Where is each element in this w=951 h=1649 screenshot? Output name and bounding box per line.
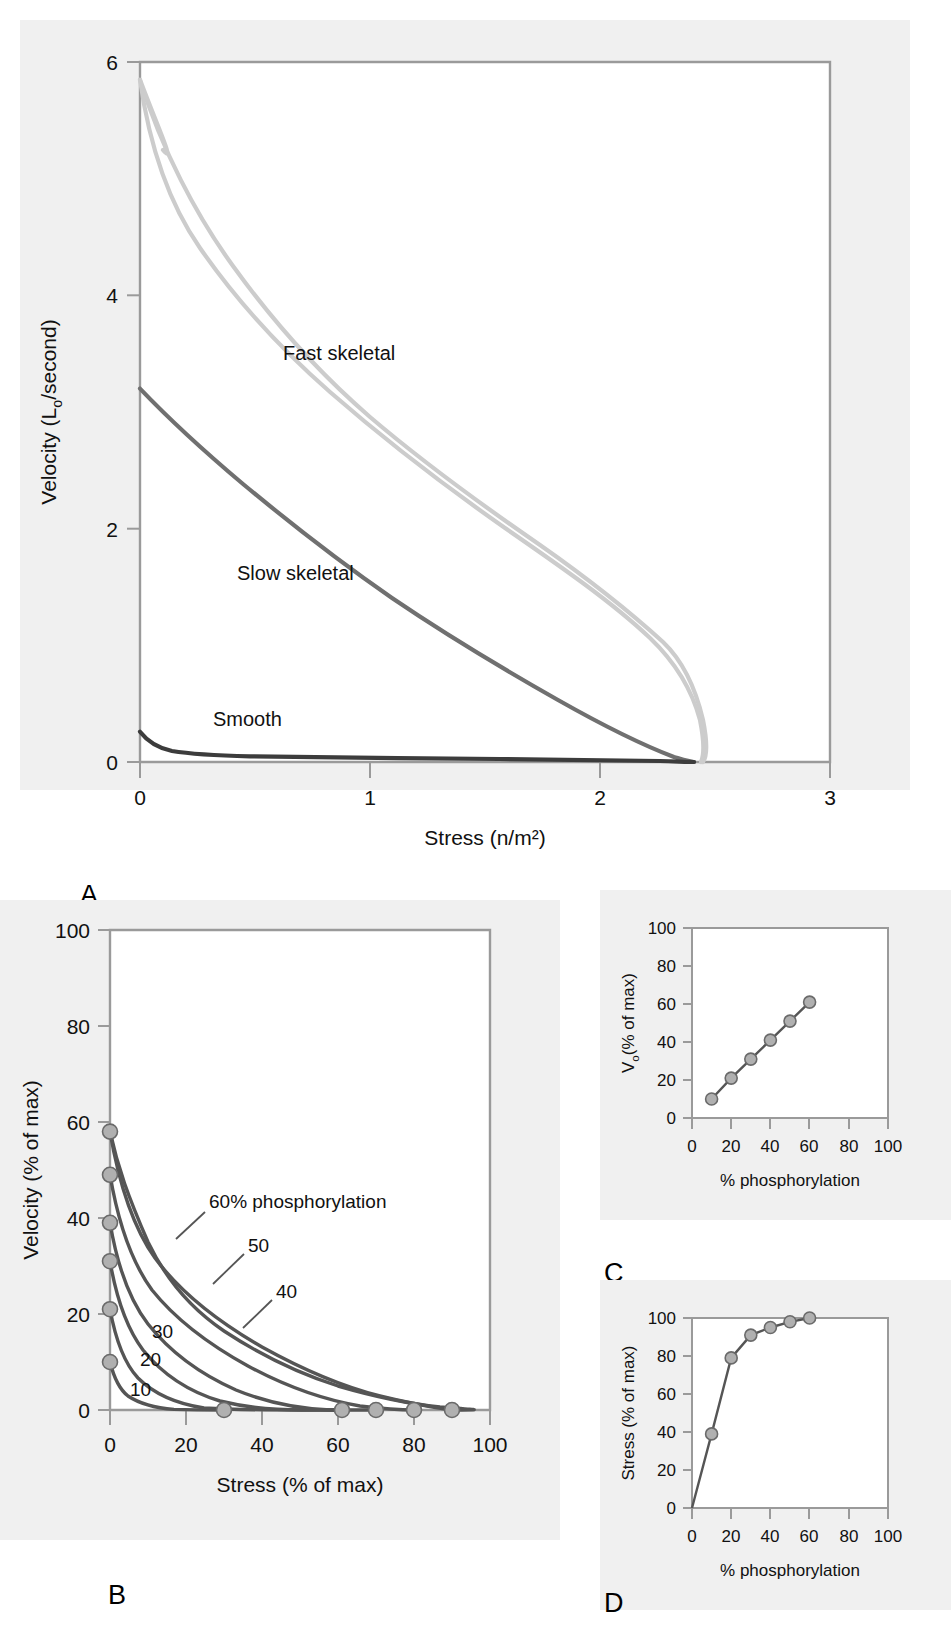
panel-b-ytick-60: 60 [67,1111,90,1134]
panel-c-ytick-80: 80 [657,957,676,976]
panel-c-xtick-20: 20 [722,1137,741,1156]
panel-c-point-40 [764,1034,776,1046]
panel-a-ytick-4: 4 [106,284,118,307]
panel-d-ytick-40: 40 [657,1423,676,1442]
panel-d-y-axis-title: Stress (% of max) [619,1345,638,1480]
panel-d-ytick-0: 0 [667,1499,676,1518]
panel-c-point-10 [706,1093,718,1105]
panel-b-y-axis-title-wrap: Velocity (% of max) [19,1080,42,1260]
panel-a-ytick-6: 6 [106,51,118,74]
marker-y-31 [103,1254,118,1269]
panel-a-svg: 0 2 4 6 0 1 2 3 Stress (n/m²) Velocity (… [0,0,951,840]
panel-c-svg: 0 20 40 60 80 100 0 20 40 60 80 100 % ph… [600,890,951,1220]
panel-d-point-30 [745,1329,757,1341]
panel-letter-b: B [108,1580,126,1610]
panel-c-xtick-80: 80 [840,1137,859,1156]
marker-y-21 [103,1302,118,1317]
marker-y-49 [103,1167,118,1182]
panel-c-ytick-40: 40 [657,1033,676,1052]
panel-a-xtick-3: 3 [824,786,836,809]
panel-d-point-10 [706,1428,718,1440]
panel-a-label-fast-skeletal: Fast skeletal [283,342,395,364]
panel-d-xtick-60: 60 [800,1527,819,1546]
panel-b-label-60: 60% phosphorylation [209,1191,386,1212]
panel-a-ytick-0: 0 [106,751,118,774]
panel-b-label-20: 20 [140,1349,161,1370]
marker-x-30 [217,1403,232,1418]
panel-c-point-30 [745,1053,757,1065]
panel-a-xtick-0: 0 [134,786,146,809]
marker-y-58 [103,1124,118,1139]
panel-d-ytick-80: 80 [657,1347,676,1366]
panel-d-point-40 [764,1322,776,1334]
panel-d-xtick-40: 40 [761,1527,780,1546]
panel-c-xtick-0: 0 [687,1137,696,1156]
marker-x-80 [407,1403,422,1418]
panel-c-xtick-60: 60 [800,1137,819,1156]
panel-d-xtick-0: 0 [687,1527,696,1546]
panel-d-x-axis-title: % phosphorylation [720,1561,860,1580]
panel-d-y-axis-title-wrap: Stress (% of max) [619,1345,638,1480]
panel-b-label-40: 40 [276,1281,297,1302]
panel-a-x-axis-title: Stress (n/m²) [424,826,545,849]
panel-d: 0 20 40 60 80 100 0 20 40 60 80 100 % ph… [600,1280,951,1610]
marker-y-10 [103,1355,118,1370]
panel-b-xtick-100: 100 [472,1433,507,1456]
panel-c-point-20 [725,1072,737,1084]
marker-x-61 [335,1403,350,1418]
panel-a-xtick-1: 1 [364,786,376,809]
panel-c-x-axis-title: % phosphorylation [720,1171,860,1190]
panel-b-ytick-0: 0 [78,1399,90,1422]
panel-c-xtick-100: 100 [874,1137,902,1156]
panel-letter-d-wrap: D [604,1588,624,1619]
panel-a-label-smooth: Smooth [213,708,282,730]
panel-c-point-60 [804,996,816,1008]
panel-d-point-20 [725,1352,737,1364]
panel-b-xtick-20: 20 [174,1433,197,1456]
panel-c-ytick-20: 20 [657,1071,676,1090]
panel-b-ytick-100: 100 [55,919,90,942]
marker-x-90 [445,1403,460,1418]
panel-b-label-10: 10 [130,1379,151,1400]
panel-c-xtick-40: 40 [761,1137,780,1156]
panel-a-ytick-2: 2 [106,518,118,541]
panel-b-label-50: 50 [248,1235,269,1256]
panel-a: 0 2 4 6 0 1 2 3 Stress (n/m²) Velocity (… [0,0,951,840]
panel-d-point-60 [804,1312,816,1324]
panel-d-xtick-20: 20 [722,1527,741,1546]
panel-b-xtick-60: 60 [326,1433,349,1456]
panel-d-ytick-20: 20 [657,1461,676,1480]
panel-d-xtick-100: 100 [874,1527,902,1546]
panel-b-svg: 0 20 40 60 80 100 0 20 40 60 80 100 Stre… [0,900,560,1540]
panel-letter-b-wrap: B [108,1580,126,1611]
marker-x-70 [369,1403,384,1418]
panel-d-ytick-100: 100 [648,1309,676,1328]
panel-a-xtick-2: 2 [594,786,606,809]
panel-b-ytick-40: 40 [67,1207,90,1230]
panel-d-ytick-60: 60 [657,1385,676,1404]
panel-d-point-50 [784,1316,796,1328]
panel-b-ytick-20: 20 [67,1303,90,1326]
panel-a-label-slow-skeletal: Slow skeletal [237,562,354,584]
panel-d-svg: 0 20 40 60 80 100 0 20 40 60 80 100 % ph… [600,1280,951,1610]
panel-d-xtick-80: 80 [840,1527,859,1546]
panel-letter-d: D [604,1588,624,1618]
panel-b-x-axis-title: Stress (% of max) [217,1473,384,1496]
marker-y-39 [103,1215,118,1230]
panel-c-ytick-0: 0 [667,1109,676,1128]
panel-b-label-30: 30 [152,1321,173,1342]
panel-b-xtick-40: 40 [250,1433,273,1456]
panel-d-plot-background [692,1318,888,1508]
panel-b-xtick-80: 80 [402,1433,425,1456]
panel-b-xtick-0: 0 [104,1433,116,1456]
panel-c-ytick-100: 100 [648,919,676,938]
panel-b: 0 20 40 60 80 100 0 20 40 60 80 100 Stre… [0,900,560,1540]
panel-c-point-50 [784,1015,796,1027]
panel-b-ytick-80: 80 [67,1015,90,1038]
panel-b-y-axis-title: Velocity (% of max) [19,1080,42,1260]
panel-c: 0 20 40 60 80 100 0 20 40 60 80 100 % ph… [600,890,951,1220]
panel-c-ytick-60: 60 [657,995,676,1014]
